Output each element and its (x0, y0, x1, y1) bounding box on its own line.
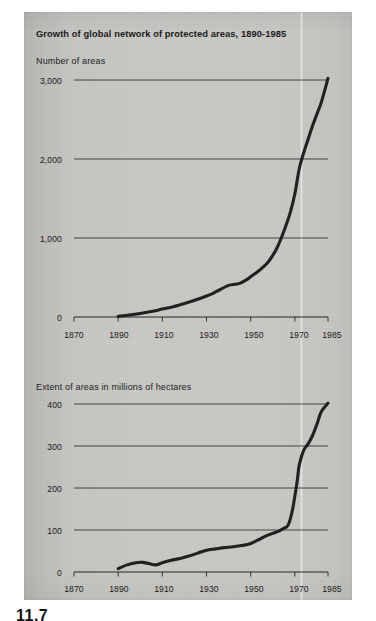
top-xtick-1950: 1950 (234, 330, 274, 340)
bottom-xtick-1890: 1890 (99, 584, 139, 594)
top-xtick-1910: 1910 (144, 330, 184, 340)
top-xtick-1985: 1985 (312, 330, 352, 340)
bottom-ytick-0: 0 (20, 568, 62, 578)
top-xtick-1870: 1870 (54, 330, 94, 340)
top-xtick-1890: 1890 (99, 330, 139, 340)
bottom-xtick-1985: 1985 (312, 584, 352, 594)
bottom-chart-plot (24, 394, 352, 596)
figure-page: Growth of global network of protected ar… (0, 0, 376, 621)
top-chart-caption: Number of areas (36, 56, 105, 66)
chart-number-of-areas: 3,000 2,000 1,000 0 1870 1890 1910 1930 … (24, 68, 352, 340)
top-ytick-2000: 2,000 (20, 155, 62, 165)
top-chart-plot (24, 68, 352, 340)
bottom-xtick-1950: 1950 (234, 584, 274, 594)
page-number: 11.7 (16, 606, 48, 621)
chart-extent-of-areas: 400 300 200 100 0 1870 1890 1910 1930 19… (24, 394, 352, 596)
bottom-xtick-1930: 1930 (189, 584, 229, 594)
top-ytick-1000: 1,000 (20, 234, 62, 244)
bottom-xtick-1870: 1870 (54, 584, 94, 594)
figure-title: Growth of global network of protected ar… (36, 28, 336, 40)
bottom-ytick-200: 200 (20, 484, 62, 494)
top-ytick-0: 0 (20, 313, 62, 323)
bottom-xtick-1910: 1910 (144, 584, 184, 594)
bottom-ytick-400: 400 (20, 400, 62, 410)
bottom-ytick-300: 300 (20, 442, 62, 452)
bottom-ytick-100: 100 (20, 526, 62, 536)
top-xtick-1930: 1930 (189, 330, 229, 340)
top-ytick-3000: 3,000 (20, 76, 62, 86)
bottom-chart-caption: Extent of areas in millions of hectares (36, 382, 191, 392)
